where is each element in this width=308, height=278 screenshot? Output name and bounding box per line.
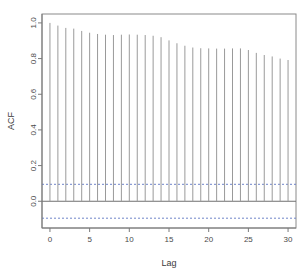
y-axis-title: ACF [6,111,16,130]
y-axis-tick-label: 0.4 [29,124,38,136]
y-axis-tick-label: 0.2 [29,159,38,171]
x-axis-tick-label: 15 [165,235,174,244]
acf-bars-group [50,23,288,201]
x-axis-tick-label: 10 [125,235,134,244]
x-axis-tick-label: 30 [284,235,293,244]
acf-plot-figure: 051015202530Lag0.00.20.40.60.81.0ACF [0,0,308,278]
x-axis-tick-label: 0 [48,235,53,244]
acf-plot-canvas: 051015202530Lag0.00.20.40.60.81.0ACF [0,0,308,278]
x-axis-title: Lag [161,258,176,268]
x-axis-tick-label: 5 [87,235,92,244]
y-axis-tick-label: 0.6 [29,88,38,100]
y-axis-tick-label: 1.0 [29,17,38,29]
x-axis-tick-label: 25 [244,235,253,244]
x-axis-tick-label: 20 [204,235,213,244]
y-axis-tick-label: 0.8 [29,52,38,64]
y-axis-tick-label: 0.0 [29,195,38,207]
